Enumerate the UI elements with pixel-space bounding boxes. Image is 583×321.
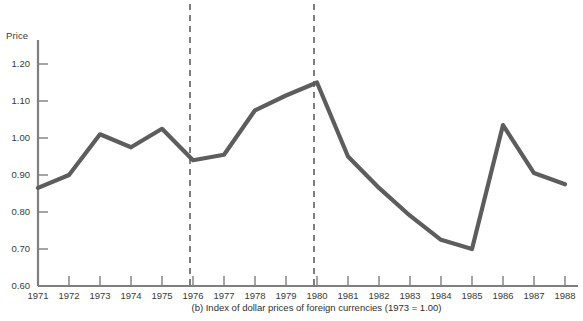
chart-plot-area [0, 0, 583, 321]
figure-caption-text: (b) Index of dollar prices of foreign cu… [141, 302, 441, 313]
axes-group [38, 40, 578, 286]
figure-container: Price 1.20 1.10 1.00 0.90 0.80 0.70 0.60… [0, 0, 583, 321]
annotation-vlines [190, 4, 314, 286]
price-index-line [38, 83, 565, 250]
x-axis-ticks [69, 276, 565, 286]
figure-caption: (b) Index of dollar prices of foreign cu… [0, 302, 583, 313]
y-axis-ticks [38, 64, 48, 249]
